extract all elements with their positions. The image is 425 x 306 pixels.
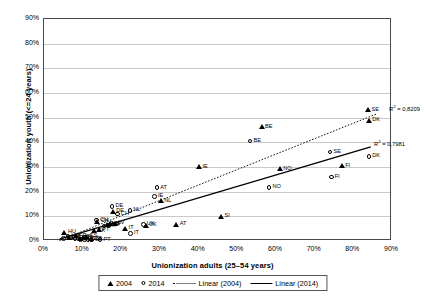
data-point-label: IT (134, 230, 139, 236)
r-squared-label: R2 = 0,7981 (374, 139, 405, 147)
x-tick-label: 70% (299, 245, 329, 252)
x-tick-label: 40% (183, 245, 213, 252)
x-axis-title: Unionization adults (25–54 years) (0, 261, 425, 270)
y-tick-label: 20% (13, 187, 39, 194)
data-point-label: NO (283, 166, 291, 172)
data-point-2004-NO (277, 166, 283, 171)
data-point-label: DK (372, 153, 380, 159)
data-point-label: IT (129, 225, 134, 231)
x-tick-label: 50% (221, 245, 251, 252)
data-point-2014-LV (109, 221, 114, 226)
data-point-2014-DK (367, 154, 372, 159)
legend-label: Linear (2004) (199, 279, 242, 288)
circle-marker-icon (141, 281, 146, 286)
data-point-label: SE (334, 149, 341, 155)
data-point-label: DE (115, 203, 123, 209)
data-point-2014-IE (152, 194, 157, 199)
plot-area: HUEEFRLTPLESCZSKPTCHDEGRSILVITUKNLATIESI… (43, 18, 391, 240)
data-point-label: AT (180, 221, 187, 227)
solid-line-icon (250, 283, 272, 284)
data-point-2004-SI (218, 214, 224, 219)
data-point-2004-AT (173, 222, 179, 227)
x-tick-label: 80% (337, 245, 367, 252)
y-tick-label: 80% (13, 39, 39, 46)
data-point-2014-AT (155, 185, 160, 190)
data-point-label: NL (164, 198, 171, 204)
data-point-2014-UK (141, 222, 146, 227)
data-point-2004-FI (339, 163, 345, 168)
trendlines-layer (44, 19, 392, 241)
legend-item-2004[interactable]: 2004 (107, 279, 132, 288)
data-point-2004-PT (96, 227, 102, 232)
x-tick-label: 10% (67, 245, 97, 252)
data-point-2014-CH (115, 212, 120, 217)
data-point-2014-FR (73, 236, 78, 241)
data-point-label: LV (115, 221, 121, 227)
data-point-label: NO (272, 184, 280, 190)
chart-legend: 20042014Linear (2004)Linear (2014) (98, 275, 327, 291)
y-tick-label: 60% (13, 88, 39, 95)
data-point-label: DK (372, 117, 380, 123)
data-point-2014-IT (128, 231, 133, 236)
dotted-line-icon (174, 283, 196, 284)
y-tick-label: 30% (13, 162, 39, 169)
y-tick-label: 40% (13, 137, 39, 144)
y-tick-label: 70% (13, 63, 39, 70)
data-point-label: BE (253, 138, 260, 144)
data-point-2004-IE (196, 164, 202, 169)
data-point-label: UK (147, 221, 155, 227)
data-point-2014-SK (89, 238, 94, 243)
x-tick-label: 60% (260, 245, 290, 252)
y-tick-label: 10% (13, 211, 39, 218)
data-point-2014-NL (128, 208, 133, 213)
y-tick-label: 0% (13, 236, 39, 243)
data-point-label: NL (133, 207, 140, 213)
x-tick-label: 90% (376, 245, 406, 252)
data-point-label: BE (265, 124, 272, 130)
x-tick-label: 20% (105, 245, 135, 252)
legend-label: Linear (2014) (275, 279, 318, 288)
data-point-2004-DK (366, 118, 372, 123)
data-point-2014-EE (61, 236, 66, 241)
data-point-label: AT (160, 185, 167, 191)
data-point-2014-CH (94, 218, 99, 223)
y-tick-label: 50% (13, 113, 39, 120)
legend-label: 2014 (149, 279, 165, 288)
legend-item-linear2014[interactable]: Linear (2014) (250, 279, 318, 288)
data-point-label: FI (335, 174, 340, 180)
data-point-2014-FI (329, 175, 334, 180)
x-tick-label: 30% (144, 245, 174, 252)
data-point-2014-NO (267, 185, 272, 190)
legend-item-2014[interactable]: 2014 (141, 279, 165, 288)
data-point-2004-BE (259, 124, 265, 129)
data-point-2004-IT (122, 226, 128, 231)
data-point-2004-SE (365, 107, 371, 112)
data-point-label: PT (103, 237, 110, 243)
y-tick-label: 90% (13, 14, 39, 21)
legend-item-linear2004[interactable]: Linear (2004) (174, 279, 242, 288)
scatter-chart: Unionization youth (<=24 years) 0%10%20%… (0, 0, 425, 306)
triangle-marker-icon (107, 281, 113, 286)
r-squared-label: R2 = 0,8209 (389, 104, 420, 112)
data-point-2014-DE (110, 204, 115, 209)
legend-label: 2004 (116, 279, 132, 288)
data-point-label: IE (158, 193, 163, 199)
x-tick-label: 0% (28, 245, 58, 252)
data-point-label: SI (224, 213, 229, 219)
data-point-label: IE (202, 164, 207, 170)
data-point-label: SE (371, 107, 378, 113)
data-point-label: FI (345, 163, 350, 169)
